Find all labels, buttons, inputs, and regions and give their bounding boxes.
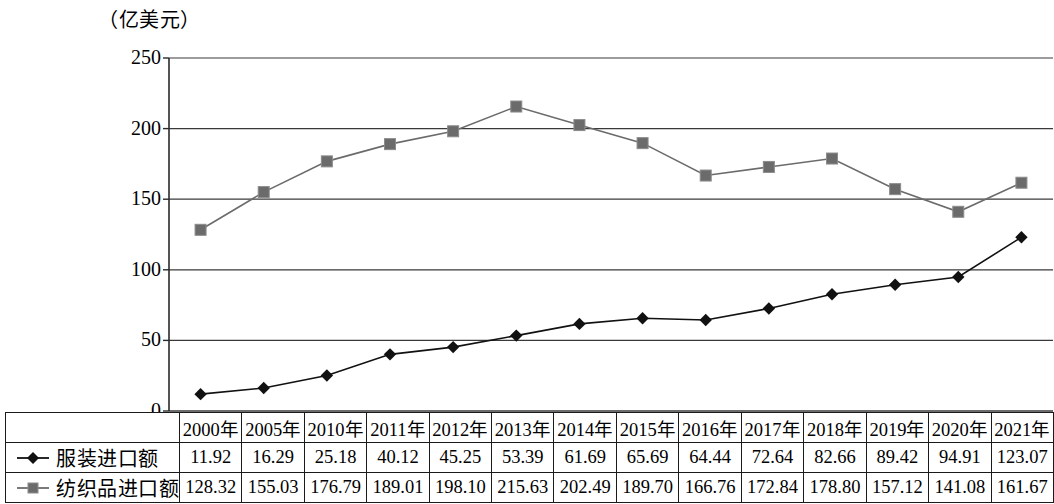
table-cell-value: 161.67	[991, 473, 1053, 503]
table-header-year: 2018年	[804, 413, 866, 443]
data-point-marker	[890, 184, 901, 195]
diamond-marker-icon	[16, 451, 50, 465]
table-header-year: 2014年	[554, 413, 616, 443]
table-cell-value: 157.12	[866, 473, 928, 503]
table-cell-value: 94.91	[929, 443, 991, 473]
table-header-year: 2015年	[616, 413, 678, 443]
table-row: 服装进口额11.9216.2925.1840.1245.2553.3961.69…	[6, 443, 1054, 473]
series-line-clothing	[201, 237, 1022, 394]
table-cell-value: 198.10	[429, 473, 491, 503]
table-cell-value: 61.69	[554, 443, 616, 473]
data-point-marker	[636, 312, 648, 324]
legend-row-clothing: 服装进口额	[6, 443, 180, 473]
table-header-year: 2021年	[991, 413, 1053, 443]
table-header-year: 2013年	[492, 413, 554, 443]
table-cell-value: 89.42	[866, 443, 928, 473]
table-cell-value: 123.07	[991, 443, 1053, 473]
y-axis-tick-label: 150	[101, 188, 161, 208]
table-header-year: 2020年	[929, 413, 991, 443]
table-cell-value: 45.25	[429, 443, 491, 473]
table-cell-value: 64.44	[679, 443, 741, 473]
table-cell-value: 65.69	[616, 443, 678, 473]
table-cell-value: 189.70	[616, 473, 678, 503]
table-cell-value: 11.92	[180, 443, 242, 473]
chart-plot-area: 050100150200250	[0, 0, 1054, 420]
axes	[163, 58, 169, 411]
table-header-year: 2005年	[242, 413, 304, 443]
data-point-marker	[511, 101, 522, 112]
table-cell-value: 172.84	[741, 473, 803, 503]
data-point-marker	[889, 279, 901, 291]
table-header-year: 2000年	[180, 413, 242, 443]
y-axis-tick-label: 250	[101, 47, 161, 67]
table-header-year: 2019年	[866, 413, 928, 443]
data-point-marker	[573, 318, 585, 330]
table-cell-value: 16.29	[242, 443, 304, 473]
table-header-year: 2016年	[679, 413, 741, 443]
data-point-marker	[763, 161, 774, 172]
series-line-textile	[201, 107, 1022, 230]
y-axis-tick-label: 50	[101, 329, 161, 349]
legend-label: 服装进口额	[56, 443, 159, 472]
table-row: 纺织品进口额128.32155.03176.79189.01198.10215.…	[6, 473, 1054, 503]
data-point-marker	[826, 288, 838, 300]
table-cell-value: 178.80	[804, 473, 866, 503]
data-point-marker	[194, 388, 206, 400]
data-point-marker	[447, 341, 459, 353]
data-point-marker	[258, 187, 269, 198]
table-body: 服装进口额11.9216.2925.1840.1245.2553.3961.69…	[6, 443, 1054, 503]
data-point-marker	[763, 302, 775, 314]
square-marker-icon	[16, 481, 50, 495]
data-point-marker	[321, 369, 333, 381]
data-point-marker	[448, 126, 459, 137]
data-point-marker	[827, 153, 838, 164]
table-cell-value: 189.01	[367, 473, 429, 503]
table-header-year: 2011年	[367, 413, 429, 443]
y-axis-tick-label: 100	[101, 259, 161, 279]
legend-label: 纺织品进口额	[56, 473, 179, 502]
chart-page: （亿美元） 050100150200250 2000年2005年2010年201…	[0, 0, 1054, 504]
data-point-marker	[953, 206, 964, 217]
table-cell-value: 141.08	[929, 473, 991, 503]
data-point-marker	[258, 382, 270, 394]
y-axis-tick-label: 200	[101, 118, 161, 138]
table-cell-value: 215.63	[492, 473, 554, 503]
gridlines	[169, 58, 1053, 411]
data-point-marker	[574, 120, 585, 131]
table-cell-value: 82.66	[804, 443, 866, 473]
table-corner-cell	[6, 413, 180, 443]
table-cell-value: 176.79	[304, 473, 366, 503]
table-cell-value: 155.03	[242, 473, 304, 503]
data-table: 2000年2005年2010年2011年2012年2013年2014年2015年…	[5, 412, 1054, 503]
table-cell-value: 72.64	[741, 443, 803, 473]
table-cell-value: 40.12	[367, 443, 429, 473]
table-cell-value: 53.39	[492, 443, 554, 473]
table-header-year: 2017年	[741, 413, 803, 443]
data-point-marker	[952, 271, 964, 283]
data-point-marker	[1015, 231, 1027, 243]
table-header-year: 2012年	[429, 413, 491, 443]
table-cell-value: 202.49	[554, 473, 616, 503]
table-header-row: 2000年2005年2010年2011年2012年2013年2014年2015年…	[6, 413, 1054, 443]
series-layer	[194, 101, 1027, 400]
table-header-year: 2010年	[304, 413, 366, 443]
data-point-marker	[700, 314, 712, 326]
data-point-marker	[321, 156, 332, 167]
table-cell-value: 25.18	[304, 443, 366, 473]
data-point-marker	[700, 170, 711, 181]
data-point-marker	[385, 139, 396, 150]
data-point-marker	[637, 138, 648, 149]
data-point-marker	[1016, 177, 1027, 188]
data-point-marker	[195, 224, 206, 235]
legend-row-textile: 纺织品进口额	[6, 473, 180, 503]
data-point-marker	[384, 348, 396, 360]
table-cell-value: 128.32	[180, 473, 242, 503]
table-cell-value: 166.76	[679, 473, 741, 503]
